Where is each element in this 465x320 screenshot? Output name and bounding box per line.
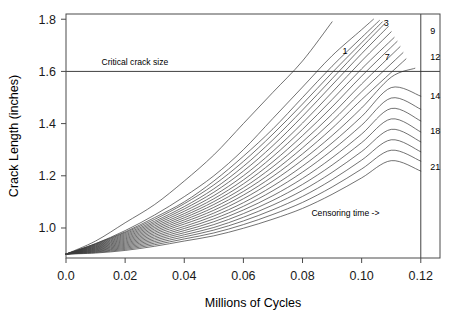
- x-axis-title: Millions of Cycles: [205, 296, 302, 310]
- x-tick-label: 0.08: [290, 269, 314, 283]
- curve-label-9: 9: [430, 26, 435, 36]
- y-tick-label: 1.0: [39, 221, 56, 235]
- x-tick-label: 0.02: [113, 269, 137, 283]
- y-tick-label: 1.4: [39, 117, 56, 131]
- x-tick-label: 0.12: [409, 269, 433, 283]
- x-tick-label: 0.10: [349, 269, 373, 283]
- chart-canvas: 0.00.020.040.060.080.100.12 1.01.21.41.6…: [0, 0, 465, 320]
- x-tick-label: 0.0: [57, 269, 74, 283]
- x-tick-label: 0.04: [172, 269, 196, 283]
- curve-label-1: 1: [342, 46, 347, 56]
- curve-label-18: 18: [430, 126, 440, 136]
- censoring-time-label: Censoring time ->: [311, 208, 379, 218]
- curve-label-12: 12: [430, 52, 440, 62]
- y-tick-label: 1.2: [39, 169, 56, 183]
- curve-label-3: 3: [384, 18, 389, 28]
- y-tick-label: 1.8: [39, 13, 56, 27]
- curve-label-7: 7: [385, 52, 390, 62]
- x-tick-label: 0.06: [231, 269, 255, 283]
- curve-label-21: 21: [430, 162, 440, 172]
- crack-growth-chart: 0.00.020.040.060.080.100.12 1.01.21.41.6…: [0, 0, 465, 320]
- y-tick-label: 1.6: [39, 65, 56, 79]
- critical-crack-size-label: Critical crack size: [101, 57, 168, 67]
- y-axis-title: Crack Length (inches): [7, 75, 21, 197]
- curve-label-14: 14: [430, 91, 440, 101]
